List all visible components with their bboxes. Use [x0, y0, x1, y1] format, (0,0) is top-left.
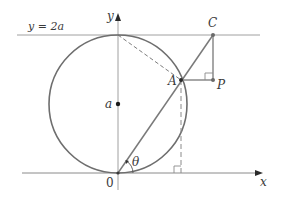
- point-O: [116, 171, 119, 174]
- center-point: [116, 102, 120, 106]
- geometry-diagram: y x y = 2a C A P a 0 θ: [0, 0, 290, 202]
- point-C: [211, 33, 215, 37]
- line-y-2a-label: y = 2a: [27, 20, 64, 33]
- point-A: [179, 78, 183, 82]
- y-axis-label: y: [106, 9, 114, 23]
- y-axis-arrow-icon: [115, 13, 121, 21]
- right-angle-mark-axis: [174, 166, 181, 173]
- angle-theta-label: θ: [132, 155, 140, 169]
- point-P-label: P: [216, 78, 226, 92]
- line-OC: [118, 35, 213, 173]
- point-C-label: C: [208, 16, 217, 30]
- point-A-label: A: [167, 74, 177, 88]
- center-label: a: [105, 97, 112, 111]
- origin-label: 0: [106, 176, 114, 190]
- x-axis-label: x: [260, 175, 267, 189]
- point-P: [211, 78, 215, 82]
